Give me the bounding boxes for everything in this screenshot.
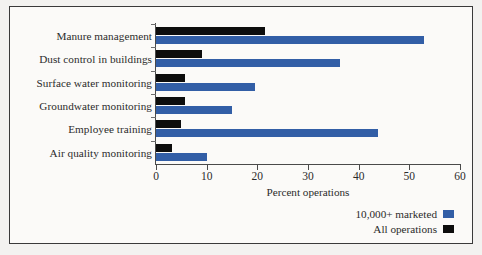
bar-10000-marketed [156,153,207,161]
chart-figure: Manure managementDust control in buildin… [0,0,482,255]
y-axis-label: Groundwater monitoring [14,100,152,112]
x-axis-tick-label: 0 [141,170,171,182]
y-axis-tick [151,71,156,72]
legend-item: 10,000+ marketed [356,206,455,221]
bar-all-operations [156,50,202,58]
x-axis-tick-label: 20 [242,170,272,182]
y-axis-tick [151,47,156,48]
bar-group [156,141,460,164]
bar-10000-marketed [156,59,340,67]
y-axis-tick [151,117,156,118]
y-axis-tick [151,141,156,142]
legend-label: All operations [373,223,437,235]
bar-all-operations [156,74,185,82]
y-axis-label: Employee training [14,123,152,135]
x-axis-tick-label: 60 [445,170,475,182]
legend-item: All operations [356,221,455,236]
x-axis-tick-label: 10 [192,170,222,182]
x-axis-tick-label: 40 [344,170,374,182]
y-axis-tick [151,94,156,95]
bar-all-operations [156,144,172,152]
legend-color-swatch [443,210,454,218]
plot-area [156,24,460,164]
bar-group [156,94,460,117]
y-axis-label: Dust control in buildings [14,53,152,65]
x-axis-tick-label: 50 [394,170,424,182]
y-axis-tick [151,24,156,25]
y-axis-category-labels: Manure managementDust control in buildin… [10,24,152,164]
bar-group [156,47,460,70]
bar-10000-marketed [156,106,232,114]
x-axis-tick-label: 30 [293,170,323,182]
bar-group [156,117,460,140]
bar-group [156,24,460,47]
x-axis-title: Percent operations [156,186,460,198]
legend-color-swatch [443,225,454,233]
bar-all-operations [156,27,265,35]
chart-legend: 10,000+ marketedAll operations [356,206,455,236]
bar-10000-marketed [156,36,424,44]
bar-all-operations [156,120,181,128]
legend-label: 10,000+ marketed [356,208,438,220]
bar-10000-marketed [156,83,255,91]
bar-10000-marketed [156,129,378,137]
bar-all-operations [156,97,185,105]
y-axis-label: Air quality monitoring [14,147,152,159]
chart-frame: Manure managementDust control in buildin… [9,6,473,244]
bar-group [156,71,460,94]
y-axis-label: Manure management [14,30,152,42]
y-axis-label: Surface water monitoring [14,77,152,89]
